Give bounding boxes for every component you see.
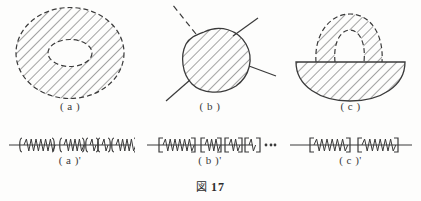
shape-annulus [0, 0, 140, 104]
figure-caption-number: 17 [211, 180, 225, 194]
shape-panel-a: ( a ) [0, 0, 140, 128]
figure-sheet: ( a ) [0, 0, 421, 201]
annulus-hatching [0, 0, 140, 104]
line-label-a: ( a )' [0, 154, 140, 166]
figure-caption-mark: 図 [196, 181, 208, 194]
annulus-drawing [0, 0, 140, 104]
blob-arc-right [249, 66, 276, 76]
annulus-inner-boundary [48, 40, 92, 67]
shape-label-a: ( a ) [0, 100, 140, 112]
figure-caption: 図17 [0, 178, 421, 195]
shape-panel-c: ( c ) [280, 0, 421, 128]
line-label-b: ( b )' [140, 154, 280, 166]
line-label-c: ( c )' [280, 154, 421, 166]
blob-arc-lower-left [166, 80, 190, 101]
line-panel-a: ( a )' [0, 132, 140, 178]
line-b-trailing-dots [265, 144, 277, 147]
blob-drawing [140, 0, 280, 104]
blob-hatching [140, 0, 280, 104]
shape-half-disk [280, 0, 421, 104]
shape-blob [140, 0, 280, 104]
shape-panel-b: ( b ) [140, 0, 280, 128]
line-panel-c: ( c )' [280, 132, 421, 178]
shape-label-c: ( c ) [280, 100, 421, 112]
shape-label-b: ( b ) [140, 100, 280, 112]
blob-arc-dashed [172, 4, 196, 34]
half-disk-drawing [280, 0, 421, 104]
line-panel-b: ( b )' [140, 132, 280, 178]
